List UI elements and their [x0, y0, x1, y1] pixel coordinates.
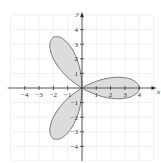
x-tick-label: 4 — [137, 91, 141, 99]
x-tick-label: −4 — [21, 91, 29, 99]
x-tick-label: 1 — [95, 91, 99, 99]
y-tick-label: −2 — [71, 114, 79, 122]
y-tick-label: 1 — [75, 70, 79, 78]
x-tick-label: 2 — [109, 91, 113, 99]
y-tick-label: 3 — [75, 41, 79, 49]
x-tick-label: 3 — [123, 91, 127, 99]
y-tick-label: 2 — [75, 55, 79, 63]
y-tick-label: −1 — [71, 99, 79, 107]
x-tick-label: −1 — [64, 91, 72, 99]
y-tick-label: −3 — [71, 128, 79, 136]
x-tick-label: −3 — [35, 91, 43, 99]
x-tick-label: −2 — [50, 91, 58, 99]
y-tick-label: −4 — [71, 143, 79, 151]
y-axis-label: y — [75, 10, 80, 18]
y-tick-label: 4 — [75, 26, 79, 34]
polar-rose-chart: −4−3−2−11234−4−3−2−11234 x y — [0, 0, 161, 163]
x-axis-label: x — [156, 88, 161, 96]
